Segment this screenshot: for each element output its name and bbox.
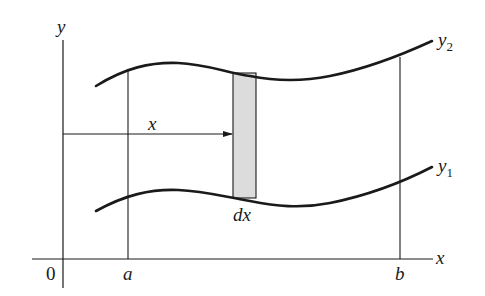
curve-label-y1-name: y xyxy=(436,155,447,176)
curve-label-y2: y2 xyxy=(436,29,453,54)
curve-label-y2-name: y xyxy=(436,29,447,50)
strip-width-label: dx xyxy=(233,204,252,225)
curve-y2 xyxy=(96,41,432,86)
x-axis-label: x xyxy=(435,247,445,268)
origin-label: 0 xyxy=(46,263,56,284)
bound-label-a: a xyxy=(123,263,133,284)
curve-y1 xyxy=(96,167,432,211)
distance-label-x: x xyxy=(147,113,157,134)
y-axis-label: y xyxy=(55,16,66,37)
bound-label-b: b xyxy=(395,263,405,284)
curve-label-y2-subscript: 2 xyxy=(446,39,453,54)
dx-strip xyxy=(233,73,256,198)
curve-label-y1-subscript: 1 xyxy=(446,165,453,180)
area-between-curves-diagram: y x 0 a b x dx y2 y1 xyxy=(0,0,485,296)
curve-label-y1: y1 xyxy=(436,155,453,180)
